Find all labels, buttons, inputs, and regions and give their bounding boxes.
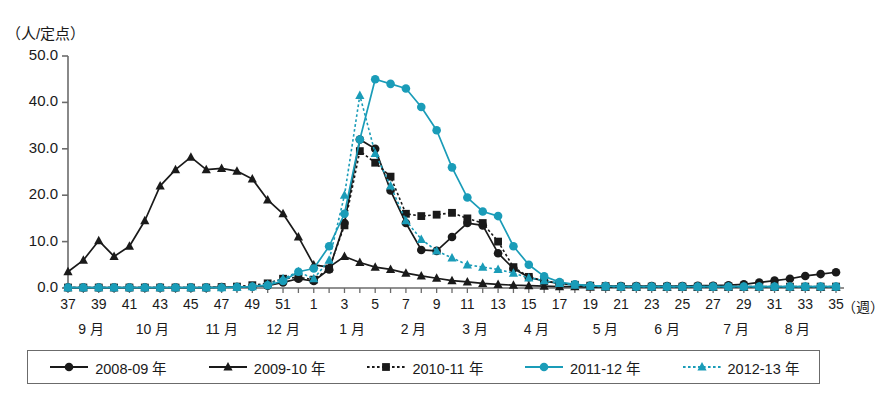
x-axis-tick-label: 33 [793,296,817,312]
legend-swatch-triangle-icon [207,360,249,374]
legend-swatch-circle-icon [48,360,90,374]
x-axis-tick-label: 43 [148,296,172,312]
legend-item-3[interactable]: 2010-11 年 [365,357,482,378]
x-axis-month-label: 1 月 [329,318,375,338]
legend-item-label: 2009-10 年 [254,357,325,378]
x-axis-tick-label: 37 [56,296,80,312]
x-axis-tick-label: 21 [609,296,633,312]
x-axis-tick-label: 49 [240,296,264,312]
x-axis-month-label: 7 月 [713,318,759,338]
x-axis-tick-label: 19 [578,296,602,312]
x-axis-tick-label: 31 [763,296,787,312]
legend-item-label: 2012-13 年 [728,357,799,378]
x-axis-month-label: 4 月 [513,318,559,338]
x-axis-unit-label: （週） [842,296,879,316]
y-axis-tick-label: 50.0 [6,46,58,63]
y-axis-unit-label: （人/定点） [6,22,85,43]
series-2 [63,152,840,290]
x-axis-tick-label: 9 [425,296,449,312]
chart-series-layer [63,75,840,292]
x-axis-tick-label: 3 [332,296,356,312]
chart-legend: 2008-09 年2009-10 年2010-11 年2011-12 年2012… [27,350,820,384]
x-axis-month-label: 9 月 [68,318,114,338]
legend-item-label: 2008-09 年 [95,357,166,378]
series-5 [63,91,840,292]
legend-swatch-square-icon [365,360,407,374]
x-axis-tick-label: 47 [210,296,234,312]
x-axis-month-label: 5 月 [583,318,629,338]
x-axis-tick-label: 5 [363,296,387,312]
x-axis-tick-label: 41 [117,296,141,312]
x-axis-tick-label: 11 [455,296,479,312]
legend-item-1[interactable]: 2008-09 年 [48,357,166,378]
legend-swatch-triangle-icon [681,360,723,374]
x-axis-month-label: 6 月 [644,318,690,338]
x-axis-tick-label: 13 [486,296,510,312]
x-axis-tick-label: 23 [640,296,664,312]
y-axis-tick-label: 20.0 [6,185,58,202]
x-axis-tick-label: 15 [517,296,541,312]
x-axis-month-label: 3 月 [452,318,498,338]
x-axis-tick-label: 25 [670,296,694,312]
x-axis-tick-label: 29 [732,296,756,312]
y-axis-tick-label: 40.0 [6,92,58,109]
legend-item-4[interactable]: 2011-12 年 [523,357,640,378]
y-axis-tick-label: 10.0 [6,232,58,249]
legend-item-2[interactable]: 2009-10 年 [207,357,325,378]
x-axis-month-label: 11 月 [199,318,245,338]
x-axis-month-label: 10 月 [129,318,175,338]
x-axis-tick-label: 27 [701,296,725,312]
legend-item-label: 2011-12 年 [570,357,640,378]
legend-item-5[interactable]: 2012-13 年 [681,357,799,378]
x-axis-tick-label: 51 [271,296,295,312]
x-axis-month-label: 12 月 [260,318,306,338]
legend-item-label: 2010-11 年 [412,357,482,378]
x-axis-month-label: 2 月 [391,318,437,338]
y-axis-tick-label: 30.0 [6,139,58,156]
x-axis-tick-label: 7 [394,296,418,312]
x-axis-month-label: 8 月 [775,318,821,338]
x-axis-tick-label: 39 [87,296,111,312]
x-axis-tick-label: 17 [548,296,572,312]
x-axis-tick-label: 1 [302,296,326,312]
legend-swatch-circle-icon [523,360,565,374]
x-axis-tick-label: 45 [179,296,203,312]
y-axis-tick-label: 0.0 [6,278,58,295]
